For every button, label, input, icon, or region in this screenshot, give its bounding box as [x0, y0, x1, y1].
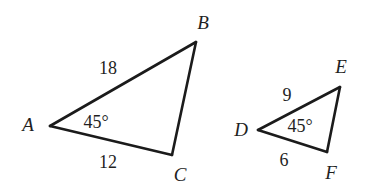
segment-ab [50, 42, 196, 126]
angle-label-a: 45° [83, 113, 108, 131]
vertex-label-c: C [174, 165, 187, 184]
side-length-label-de: 9 [283, 86, 292, 104]
vertex-label-b: B [197, 13, 209, 32]
triangle-abc-outline [50, 42, 196, 155]
vertex-label-f: F [325, 163, 337, 182]
angle-label-d: 45° [287, 117, 312, 135]
segment-ef [327, 87, 340, 152]
segment-ca [50, 126, 172, 155]
vertex-label-a: A [22, 115, 34, 134]
segment-bc [172, 42, 196, 155]
vertex-label-d: D [234, 120, 248, 139]
side-length-label-ac: 12 [99, 153, 117, 171]
side-length-label-ab: 18 [99, 59, 117, 77]
geometry-figure: A B C 18 12 45° D E F 9 6 45° [0, 0, 368, 192]
vertex-label-e: E [335, 57, 347, 76]
side-length-label-df: 6 [280, 151, 289, 169]
